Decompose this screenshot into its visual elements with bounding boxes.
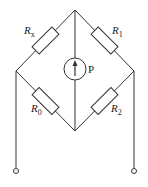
resistor-rx-label: Rx: [23, 24, 35, 39]
galvanometer-label: P: [88, 63, 94, 75]
resistor-r0-label: R0: [30, 102, 42, 117]
resistor-rx: [32, 27, 59, 54]
bridge-circuit-diagram: Rx R1 R0 R2 P: [0, 0, 148, 187]
resistor-r1-label: R1: [111, 24, 123, 39]
galvanometer-icon: [64, 58, 86, 80]
terminal-left-icon: [14, 169, 19, 174]
terminal-right-icon: [132, 169, 137, 174]
resistor-r2-label: R2: [110, 102, 122, 117]
